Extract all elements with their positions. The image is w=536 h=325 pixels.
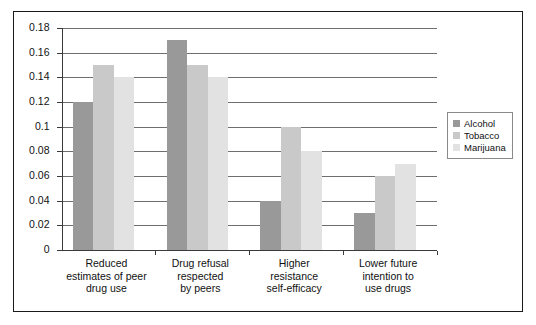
legend-label: Marijuana: [464, 142, 506, 153]
x-axis-tick: [437, 251, 438, 255]
legend-item: Alcohol: [453, 118, 507, 129]
gridline: [62, 28, 438, 29]
bar-marijuana: [395, 164, 416, 250]
x-axis-label-line: use drugs: [341, 282, 435, 295]
y-axis-label: 0.08: [14, 145, 50, 155]
x-axis-label-line: Higher: [247, 257, 341, 270]
gridline: [62, 53, 438, 54]
y-axis-label: 0.02: [14, 219, 50, 229]
bar-marijuana: [301, 151, 322, 250]
legend-label: Alcohol: [464, 118, 495, 129]
x-axis-tick: [249, 251, 250, 255]
x-axis-label-line: Drug refusal: [153, 257, 247, 270]
y-axis-label: 0.04: [14, 195, 50, 205]
bar-alcohol: [354, 213, 375, 250]
y-axis-label: 0.1: [14, 121, 50, 131]
bar-marijuana: [208, 77, 229, 250]
y-axis-label: 0: [14, 244, 50, 254]
x-axis-label-line: estimates of peer: [60, 270, 154, 283]
bar-alcohol: [73, 102, 94, 250]
x-axis-label-line: resistance: [247, 270, 341, 283]
x-axis-label-line: respected: [153, 270, 247, 283]
x-axis-label-line: drug use: [60, 282, 154, 295]
x-axis-tick: [343, 251, 344, 255]
x-axis-label-line: self-efficacy: [247, 282, 341, 295]
bar-alcohol: [167, 40, 188, 250]
bar-marijuana: [114, 77, 135, 250]
bar-chart: 00.020.040.060.080.10.120.140.160.18Redu…: [0, 0, 536, 325]
bar-tobacco: [281, 127, 302, 250]
chart-legend: AlcoholTobaccoMarijuana: [447, 112, 513, 159]
x-axis-label-line: Reduced: [60, 257, 154, 270]
bar-alcohol: [260, 201, 281, 250]
bar-tobacco: [375, 176, 396, 250]
legend-swatch-icon: [453, 132, 460, 139]
legend-item: Marijuana: [453, 142, 507, 153]
y-axis-label: 0.12: [14, 96, 50, 106]
x-axis-group-label: Lower futureintention touse drugs: [341, 257, 435, 295]
x-axis-label-line: Lower future: [341, 257, 435, 270]
legend-label: Tobacco: [464, 130, 499, 141]
x-axis-group-label: Reducedestimates of peerdrug use: [60, 257, 154, 295]
bar-tobacco: [93, 65, 114, 250]
x-axis-group-label: Higherresistanceself-efficacy: [247, 257, 341, 295]
y-axis-label: 0.14: [14, 71, 50, 81]
y-axis-label: 0.06: [14, 170, 50, 180]
legend-swatch-icon: [453, 144, 460, 151]
y-axis-label: 0.18: [14, 22, 50, 32]
y-axis: [62, 28, 63, 251]
x-axis-group-label: Drug refusalrespectedby peers: [153, 257, 247, 295]
bar-tobacco: [187, 65, 208, 250]
y-axis-label: 0.16: [14, 47, 50, 57]
x-axis-tick: [155, 251, 156, 255]
legend-swatch-icon: [453, 120, 460, 127]
legend-item: Tobacco: [453, 130, 507, 141]
x-axis-label-line: intention to: [341, 270, 435, 283]
x-axis-label-line: by peers: [153, 282, 247, 295]
